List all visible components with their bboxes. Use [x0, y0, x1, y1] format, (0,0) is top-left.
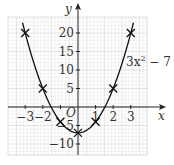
x-tick-label: −2	[34, 110, 52, 124]
y-tick-label: 10	[59, 63, 74, 77]
x-tick-label: −3	[16, 110, 34, 124]
x-tick-label: 3	[127, 110, 135, 124]
x-axis-label: x	[158, 109, 165, 123]
y-tick-label: 20	[59, 26, 74, 40]
curve-label: 3x2 − 7	[126, 54, 171, 69]
y-tick-label: 5	[66, 82, 74, 96]
parabola-chart: −3−21232015105−5−10 x y O 3x2 − 7	[0, 0, 174, 165]
x-tick-label: 2	[109, 110, 117, 124]
y-axis-label: y	[64, 2, 72, 16]
origin-label: O	[66, 106, 76, 120]
y-tick-label: −10	[49, 137, 74, 151]
y-tick-label: 15	[59, 45, 74, 59]
